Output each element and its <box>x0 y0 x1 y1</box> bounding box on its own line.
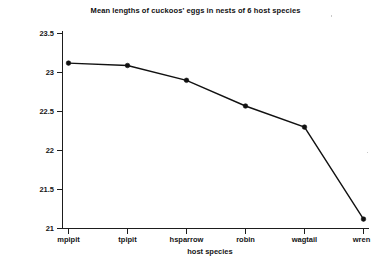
x-tick-label-hsparrow: hsparrow <box>156 235 217 244</box>
x-tick-label-robin: robin <box>215 235 276 244</box>
line-chart-plot <box>0 0 391 263</box>
x-axis-ticks <box>69 229 364 235</box>
y-tick-label-3: 22 <box>10 146 54 155</box>
data-point-hsparrow <box>184 78 189 83</box>
scan-artifact <box>367 152 368 153</box>
y-tick-label-0: 23.5 <box>10 29 54 38</box>
x-tick-label-wren: wren <box>333 235 390 244</box>
chart-screenshot: Mean lengths of cuckoos' eggs in nests o… <box>0 0 391 263</box>
y-tick-label-5: 21 <box>10 224 54 233</box>
y-axis-ticks <box>57 34 63 229</box>
x-axis-title: host species <box>150 247 270 256</box>
x-tick-label-wagtail: wagtail <box>274 235 335 244</box>
data-point-mpipit <box>66 61 71 66</box>
series-markers <box>66 61 366 222</box>
x-tick-label-mpipit: mpipit <box>38 235 99 244</box>
data-point-wren <box>361 217 366 222</box>
data-point-tpipit <box>125 63 130 68</box>
data-point-wagtail <box>302 125 307 130</box>
scan-artifact <box>331 15 332 17</box>
series-line-egg-length <box>69 63 364 219</box>
y-tick-label-1: 23 <box>10 68 54 77</box>
data-point-robin <box>243 104 248 109</box>
x-tick-label-tpipit: tpipit <box>97 235 158 244</box>
y-tick-label-2: 22.5 <box>10 107 54 116</box>
y-tick-label-4: 21.5 <box>10 185 54 194</box>
